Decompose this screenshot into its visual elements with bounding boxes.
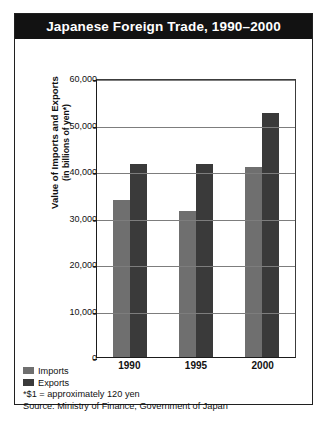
bar-imports-2000	[245, 167, 262, 357]
gridline	[97, 127, 295, 128]
bar-imports-1995	[179, 211, 196, 357]
gridline	[97, 220, 295, 221]
y-tick-label: 30,000	[69, 214, 97, 224]
y-tick-label: 20,000	[69, 260, 97, 270]
y-tick-mark	[93, 313, 97, 314]
gridline	[97, 266, 295, 267]
bar-exports-1995	[196, 164, 213, 357]
y-tick-mark	[93, 220, 97, 221]
plot-wrapper: Value of Imports and Exports (in billion…	[15, 39, 312, 404]
y-tick-label: 10,000	[69, 307, 97, 317]
y-tick-mark	[93, 266, 97, 267]
chart-legend: Imports Exports	[23, 365, 69, 389]
legend-item-exports: Exports	[23, 377, 69, 388]
bar-exports-2000	[262, 113, 279, 357]
bar-groups	[97, 80, 295, 357]
bar-group	[179, 80, 213, 357]
footnote-source: Source: Ministry of Finance, Government …	[23, 400, 306, 412]
bar-group	[113, 80, 147, 357]
x-axis-tick-labels: 199019952000	[96, 360, 296, 376]
y-tick-label: 50,000	[69, 121, 97, 131]
bar-imports-1990	[113, 200, 130, 357]
x-tick-label: 2000	[233, 360, 293, 371]
x-tick-label: 1995	[166, 360, 226, 371]
chart-figure: Japanese Foreign Trade, 1990–2000 Value …	[14, 13, 313, 405]
chart-title-bar: Japanese Foreign Trade, 1990–2000	[15, 14, 312, 39]
legend-item-imports: Imports	[23, 365, 69, 376]
gridline	[97, 173, 295, 174]
gridline	[97, 313, 295, 314]
x-tick-label: 1990	[99, 360, 159, 371]
y-axis-tick-labels: 010,00020,00030,00040,00050,00060,000	[53, 39, 97, 359]
legend-label-exports: Exports	[38, 378, 69, 388]
footnote-currency: *$1 = approximately 120 yen	[23, 388, 306, 400]
chart-footnotes: *$1 = approximately 120 yen Source: Mini…	[23, 388, 306, 412]
bar-group	[245, 80, 279, 357]
legend-label-imports: Imports	[38, 366, 69, 376]
page-title: Japanese Foreign Trade, 1990–2000	[46, 19, 281, 34]
plot-area	[96, 79, 296, 358]
bar-exports-1990	[130, 164, 147, 357]
legend-swatch-exports	[23, 379, 34, 386]
y-tick-label: 40,000	[69, 167, 97, 177]
y-tick-mark	[93, 173, 97, 174]
y-tick-mark	[93, 127, 97, 128]
legend-swatch-imports	[23, 367, 34, 374]
y-tick-mark	[93, 80, 97, 81]
y-tick-label: 60,000	[69, 74, 97, 84]
gridline	[97, 80, 295, 81]
